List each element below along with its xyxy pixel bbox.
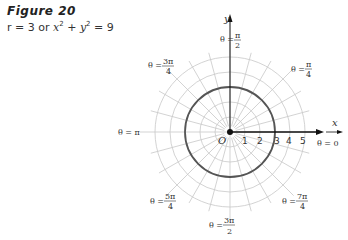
y-axis-label: y [223,13,230,24]
spoke-225 [166,136,225,195]
origin-dot [227,129,233,135]
tick-5: 5 [300,136,306,146]
spoke-135 [166,68,225,127]
label-theta-5pi-4: θ = 5π 4 [150,192,176,211]
label-theta-0: θ = 0 [317,139,339,148]
spoke-150 [159,91,225,129]
x-arrow-icon [316,129,324,135]
frac-num: π [306,60,311,69]
spoke-15 [236,111,309,131]
frac-den: 2 [235,41,240,50]
origin-label: O [218,135,226,146]
tick-3: 3 [274,136,280,146]
frac-den: 4 [168,202,173,211]
label-theta-7pi-4: θ = 7π 4 [282,192,308,211]
label-theta-3pi-4: θ = 3π 4 [148,57,174,76]
spoke-75 [232,53,252,126]
x-axis-label: x [332,117,338,128]
spoke-300 [233,137,271,203]
frac-num: π [235,31,240,40]
theta-eq: θ = [291,65,305,74]
spoke-255 [209,138,229,211]
spoke-45 [234,68,293,127]
theta-eq: θ = [220,35,234,44]
spoke-60 [233,61,271,127]
frac-num: 5π [165,192,175,201]
spoke-105 [209,53,229,126]
frac-den: 4 [306,70,311,79]
spoke-285 [232,138,252,211]
spoke-165 [151,111,224,131]
theta-eq: θ = [150,197,164,206]
frac-num: 3π [224,216,234,225]
frac-num: 3π [163,57,173,66]
spoke-30 [235,91,301,129]
spoke-210 [159,135,225,173]
x-ext-arrow-icon [337,130,343,134]
theta-eq: θ = [148,61,162,70]
spoke-195 [151,134,224,154]
spoke-120 [189,61,227,127]
label-theta-3pi-2: θ = 3π 2 [209,216,235,236]
tick-1: 1 [242,136,248,146]
spoke-240 [189,137,227,203]
frac-den: 4 [166,67,171,76]
label-theta-pi-4: θ = π 4 [291,60,312,79]
tick-2: 2 [257,136,263,146]
label-theta-pi: θ = π [118,128,140,137]
tick-4: 4 [286,136,292,146]
theta-eq: θ = [209,221,223,230]
theta-eq: θ = [282,197,296,206]
frac-den: 2 [227,227,232,236]
polar-chart: y x O 1 2 3 4 5 θ = 0 θ = π θ = π 2 θ = … [0,0,348,240]
frac-num: 7π [297,192,307,201]
frac-den: 4 [300,202,305,211]
